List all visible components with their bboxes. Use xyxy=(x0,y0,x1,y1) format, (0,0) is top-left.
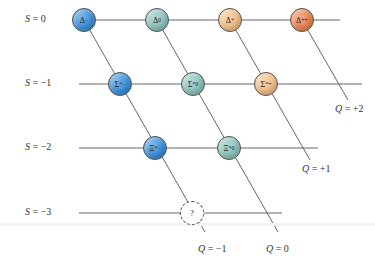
charge-line-1 xyxy=(157,20,278,232)
particle-charge-superscript: 0 xyxy=(158,17,161,23)
strangeness-label: S = −2 xyxy=(25,141,51,152)
delta-plus-plus: Δ++ xyxy=(290,8,314,32)
particle-charge-superscript: *0 xyxy=(229,145,235,151)
particle-charge-superscript: − xyxy=(85,17,88,23)
strangeness-label: S = −1 xyxy=(25,77,51,88)
sigma-star-zero: Σ*0 xyxy=(181,72,205,96)
particle-symbol: ? xyxy=(190,209,194,218)
sigma-star-plus: Σ*+ xyxy=(254,72,278,96)
charge-label: Q = −1 xyxy=(198,243,227,254)
particle-charge-superscript: *+ xyxy=(265,81,271,87)
charge-line-3 xyxy=(302,20,348,100)
sigma-star-minus: Σ*− xyxy=(108,72,132,96)
unknown-particle: ? xyxy=(180,201,204,225)
particle-charge-superscript: *− xyxy=(119,81,125,87)
delta-plus: Δ+ xyxy=(218,8,242,32)
particle-charge-superscript: ++ xyxy=(301,17,308,23)
xi-star-zero: Ξ*0 xyxy=(217,136,241,160)
strangeness-label: S = −3 xyxy=(25,206,51,217)
charge-label: Q = 0 xyxy=(266,243,289,254)
charge-label: Q = +1 xyxy=(302,163,331,174)
particle-charge-superscript: *− xyxy=(154,145,160,151)
charge-label: Q = +2 xyxy=(335,103,364,114)
delta-minus: Δ− xyxy=(72,8,96,32)
xi-star-minus: Ξ*− xyxy=(143,136,167,160)
delta-zero: Δ0 xyxy=(145,8,169,32)
charge-line-0 xyxy=(84,20,205,232)
particle-charge-superscript: *0 xyxy=(192,81,198,87)
strangeness-label: S = 0 xyxy=(25,13,46,24)
particle-charge-superscript: + xyxy=(231,17,234,23)
